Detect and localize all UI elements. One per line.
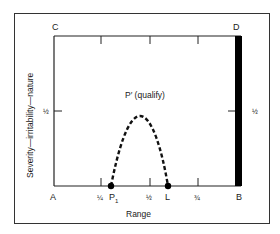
x-tick-three-quarter: ¾ bbox=[194, 194, 200, 201]
y-tick-half-left: ½ bbox=[43, 108, 49, 115]
corner-c-label: C bbox=[52, 22, 59, 32]
point-l-label: L bbox=[165, 192, 170, 202]
right-boundary-bar bbox=[235, 36, 242, 186]
top-ticks bbox=[101, 36, 198, 44]
bottom-ticks bbox=[101, 178, 198, 186]
curve-label: P′ (qualify) bbox=[125, 90, 165, 100]
y-axis-title: Severity—irritability—nature bbox=[25, 72, 35, 178]
x-axis-title: Range bbox=[126, 209, 151, 219]
diagram-canvas: C D A B ¼ ½ ¾ P1 L Range ½ ½ Severity—ir… bbox=[0, 0, 280, 234]
corner-d-label: D bbox=[233, 22, 240, 32]
point-l bbox=[165, 183, 171, 189]
point-p1 bbox=[108, 183, 114, 189]
x-tick-quarter: ¼ bbox=[97, 194, 103, 201]
corner-b-label: B bbox=[236, 192, 242, 202]
y-tick-half-right: ½ bbox=[252, 108, 258, 115]
plot-box bbox=[54, 36, 241, 186]
x-tick-half: ½ bbox=[146, 194, 152, 201]
point-p-label: P1 bbox=[109, 192, 119, 204]
corner-a-label: A bbox=[50, 192, 56, 202]
p-prime-curve bbox=[111, 116, 168, 186]
